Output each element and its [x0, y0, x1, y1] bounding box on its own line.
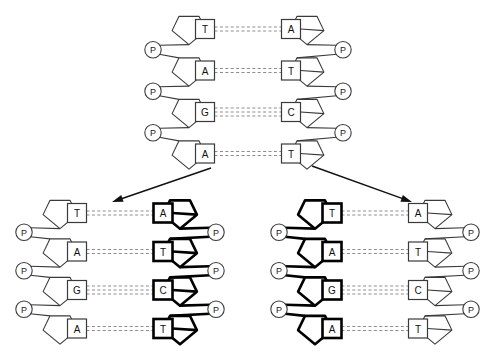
phosphate-circle-right-2 [208, 263, 224, 279]
base-box-left-3 [323, 281, 342, 300]
phosphate-circle-left-1 [16, 224, 32, 240]
base-box-left-1 [68, 204, 87, 223]
phosphate-circle-right-3 [463, 301, 479, 317]
base-box-right-1 [282, 20, 301, 39]
base-box-right-3 [154, 281, 173, 300]
backbone-link-left-1-upper [285, 228, 315, 229]
base-box-left-2 [323, 242, 342, 261]
glycosidic-bond-right-1 [173, 213, 197, 215]
phosphate-circle-right-2 [335, 83, 351, 99]
phosphate-circle-right-2 [463, 263, 479, 279]
base-box-right-2 [409, 242, 428, 261]
phosphate-circle-right-3 [208, 301, 224, 317]
phosphate-circle-left-1 [145, 42, 161, 58]
backbone-link-right-2-upper [180, 266, 210, 267]
base-box-right-3 [409, 281, 428, 300]
base-box-right-3 [282, 103, 301, 122]
base-box-right-4 [409, 319, 428, 338]
backbone-link-right-2-upper [307, 86, 337, 87]
backbone-link-right-1-upper [180, 228, 210, 229]
backbone-link-left-3-upper [285, 305, 315, 306]
base-box-left-3 [196, 103, 215, 122]
base-box-left-1 [196, 20, 215, 39]
phosphate-circle-left-3 [145, 125, 161, 141]
base-box-left-3 [68, 281, 87, 300]
phosphate-circle-right-1 [208, 224, 224, 240]
glycosidic-bond-right-4 [173, 329, 197, 331]
phosphate-circle-right-1 [463, 224, 479, 240]
base-box-left-2 [196, 61, 215, 80]
base-box-right-4 [282, 144, 301, 163]
base-box-left-2 [68, 242, 87, 261]
backbone-link-left-1-upper [159, 45, 189, 46]
backbone-link-right-3-upper [180, 305, 210, 306]
backbone-link-right-3-upper [307, 128, 337, 129]
base-box-left-4 [196, 144, 215, 163]
phosphate-circle-right-3 [335, 125, 351, 141]
dna-replication-diagram: PPPPPPTAATGCAT PPPPPPTAATGCAT PPPPPPTAAT… [0, 0, 495, 356]
phosphate-circle-left-2 [16, 263, 32, 279]
backbone-link-left-2-upper [159, 86, 189, 87]
phosphate-circle-right-1 [335, 42, 351, 58]
base-box-right-2 [282, 61, 301, 80]
base-box-left-4 [68, 319, 87, 338]
dna-replication-figure: PPPPPPTAATGCAT PPPPPPTAATGCAT PPPPPPTAAT… [0, 0, 495, 356]
figure-background [0, 0, 495, 356]
backbone-link-right-1-upper [307, 45, 337, 46]
base-box-right-1 [154, 204, 173, 223]
backbone-link-left-2-upper [285, 266, 315, 267]
phosphate-circle-left-3 [16, 301, 32, 317]
base-box-left-1 [323, 204, 342, 223]
base-box-right-2 [154, 242, 173, 261]
backbone-link-left-3-upper [159, 128, 189, 129]
glycosidic-bond-right-2 [173, 252, 197, 254]
base-box-right-1 [409, 204, 428, 223]
glycosidic-bond-right-3 [173, 290, 197, 292]
phosphate-circle-left-1 [271, 224, 287, 240]
phosphate-circle-left-3 [271, 301, 287, 317]
base-box-right-4 [154, 319, 173, 338]
phosphate-circle-left-2 [271, 263, 287, 279]
base-box-left-4 [323, 319, 342, 338]
phosphate-circle-left-2 [145, 83, 161, 99]
